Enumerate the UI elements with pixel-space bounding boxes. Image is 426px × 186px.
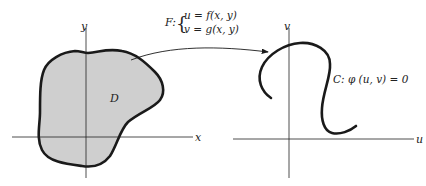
region-label: D bbox=[109, 92, 119, 105]
x-axis-label: x bbox=[195, 131, 202, 144]
transformation-diagram: x y D F: { u = f(x, y) v = g(x, y) u v C… bbox=[0, 0, 426, 186]
mapping-line-2: v = g(x, y) bbox=[184, 23, 239, 35]
y-axis-label: y bbox=[80, 20, 88, 33]
curve-label: C: φ (u, v) = 0 bbox=[333, 73, 409, 85]
mapping-line-1: u = f(x, y) bbox=[184, 9, 237, 21]
v-axis-label: v bbox=[284, 20, 291, 33]
right-plane: u v C: φ (u, v) = 0 bbox=[233, 20, 423, 178]
mapping-arrow bbox=[131, 48, 268, 60]
left-plane: x y D bbox=[12, 20, 202, 178]
mapping-label: F: { u = f(x, y) v = g(x, y) bbox=[164, 9, 239, 35]
u-axis-label: u bbox=[416, 133, 423, 146]
region-d bbox=[39, 50, 163, 167]
mapping-name: F: bbox=[164, 16, 176, 29]
curve-c bbox=[260, 43, 356, 134]
